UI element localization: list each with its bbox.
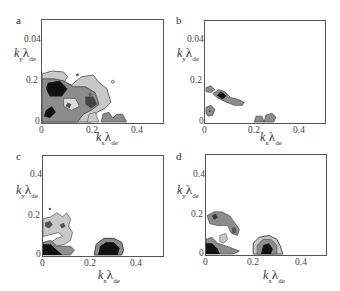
x-tick: 0.2 (247, 258, 259, 268)
plot-area (42, 155, 164, 257)
x-tick: 0 (202, 126, 207, 136)
plot-area (41, 19, 164, 124)
contour-plot (205, 21, 325, 123)
plot-area (204, 20, 326, 124)
y-axis-label: kyλde (14, 46, 36, 59)
y-tick: 0.2 (26, 76, 38, 86)
panel-label: d (176, 150, 182, 162)
y-tick: 0.4 (30, 170, 42, 180)
x-tick: 0.2 (248, 126, 260, 136)
panel-label: b (176, 14, 182, 26)
plot-area (205, 154, 327, 256)
x-axis-label: kxλde (263, 268, 285, 281)
contour-plot (43, 156, 163, 256)
x-tick: 0.4 (130, 259, 142, 269)
y-tick: 0.2 (28, 211, 40, 221)
x-axis-label: kxλde (98, 268, 120, 281)
x-tick: 0.4 (295, 258, 307, 268)
y-tick: 0.04 (24, 35, 41, 45)
panel-label: c (16, 150, 21, 162)
x-tick: 0.2 (84, 259, 96, 269)
x-axis-label: kxλde (260, 130, 282, 143)
contour-plot (42, 20, 163, 123)
x-tick: 0.4 (293, 126, 305, 136)
x-axis-label: kxλde (96, 130, 118, 143)
y-tick: 0.2 (190, 76, 202, 86)
x-tick: 0 (40, 259, 45, 269)
panel-label: a (16, 14, 21, 26)
y-axis-label: kyλde (177, 46, 199, 59)
x-tick: 0 (203, 258, 208, 268)
y-tick: 0.04 (187, 35, 204, 45)
x-tick: 0.4 (131, 126, 143, 136)
y-axis-label: kyλde (177, 183, 199, 196)
x-tick: 0 (39, 126, 44, 136)
y-tick: 0.4 (193, 170, 205, 180)
contour-plot (206, 155, 326, 255)
y-axis-label: kyλde (16, 183, 38, 196)
y-tick: 0.2 (191, 210, 203, 220)
